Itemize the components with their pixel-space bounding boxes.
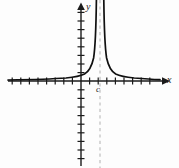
graph-figure: x y c	[0, 0, 179, 168]
plot-canvas	[0, 0, 179, 168]
y-axis-label: y	[86, 2, 90, 12]
y-axis-arrowhead	[77, 3, 85, 11]
asymptote-c-label: c	[96, 85, 100, 94]
x-axis-label: x	[167, 75, 171, 85]
y-axis	[77, 3, 85, 167]
